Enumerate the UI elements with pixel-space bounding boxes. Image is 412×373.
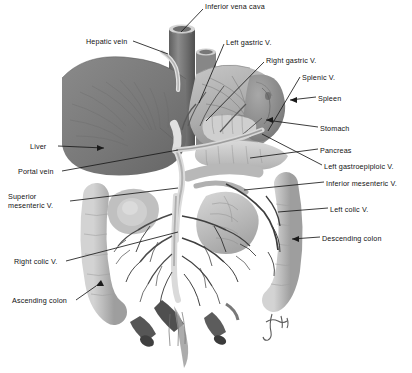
- label-spleen: Spleen: [318, 95, 341, 104]
- label-ascending-colon: Ascending colon: [12, 297, 67, 306]
- label-superior-mesenteric-v: Superior mesenteric V.: [8, 193, 64, 210]
- label-right-colic-v: Right colic V.: [14, 258, 57, 267]
- liver-organ: [62, 57, 186, 176]
- anatomy-figure: Inferior vena cava Hepatic vein Left gas…: [0, 0, 412, 373]
- label-hepatic-vein: Hepatic vein: [86, 38, 127, 47]
- label-stomach: Stomach: [320, 125, 349, 134]
- label-descending-colon: Descending colon: [322, 235, 382, 244]
- lower-vessel-stumps: [130, 300, 238, 368]
- transverse-colon-organ: [188, 169, 258, 176]
- label-inferior-vena-cava: Inferior vena cava: [205, 3, 265, 12]
- label-splenic-v: Splenic V.: [302, 74, 335, 83]
- descending-colon-organ: [271, 184, 298, 300]
- label-portal-vein: Portal vein: [18, 168, 54, 177]
- artist-signature: [263, 314, 288, 340]
- superior-mesenteric-vein-vessel: [174, 196, 178, 300]
- label-pancreas: Pancreas: [320, 147, 352, 156]
- label-left-colic-v: Left colic V.: [330, 206, 368, 215]
- label-inferior-mesenteric-v: Inferior mesenteric V.: [326, 180, 397, 189]
- small-intestine-organ: [196, 183, 259, 254]
- label-right-gastric-v: Right gastric V.: [266, 57, 316, 66]
- label-liver: Liver: [30, 143, 46, 152]
- label-left-gastric-v: Left gastric V.: [226, 39, 272, 48]
- label-left-gastroepiploic-v: Left gastroepiploic V.: [324, 163, 394, 172]
